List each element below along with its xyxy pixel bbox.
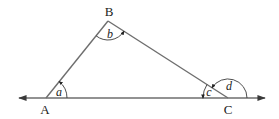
angle-label-a: a: [56, 85, 62, 99]
vertex-label-c: C: [224, 102, 233, 117]
angle-label-d: d: [226, 79, 233, 93]
angle-label-b: b: [107, 27, 113, 41]
angle-label-c: c: [206, 85, 212, 99]
triangle-diagram: B A C a b c d: [0, 0, 279, 119]
vertex-label-b: B: [105, 4, 114, 19]
vertex-label-a: A: [40, 102, 50, 117]
